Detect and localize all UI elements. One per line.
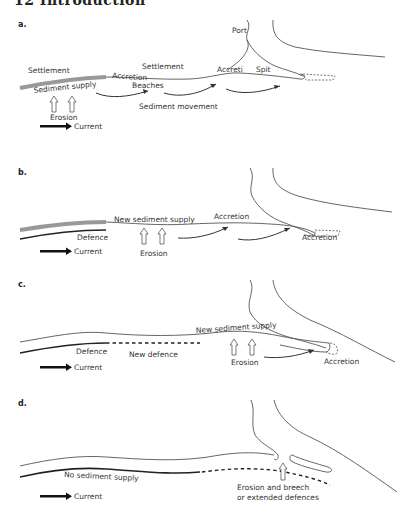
- panel-a: a. Port Settlement Settlement Accretion …: [0, 0, 412, 125]
- panel-d-diagram: No sediment supply Erosion and breech or…: [0, 397, 412, 507]
- label-erosion-breech-1: Erosion and breech: [237, 483, 309, 492]
- label-new-defence: New defence: [129, 350, 178, 359]
- label-sediment-supply: Sediment supply: [33, 79, 97, 95]
- panel-d: d. No sediment supply Erosion and breech…: [0, 397, 412, 507]
- label-current: Current: [74, 363, 102, 372]
- current-arrow-icon: [40, 364, 72, 372]
- current-arrow-icon: [40, 493, 72, 501]
- erosion-arrow-icon: [140, 228, 166, 244]
- panel-a-diagram: Port Settlement Settlement Accretion Acc…: [0, 0, 412, 125]
- label-accretion-top: Accretion: [214, 212, 249, 221]
- label-settlement-mid: Settlement: [142, 62, 184, 71]
- panel-b-diagram: New sediment supply Accretion Defence Er…: [0, 168, 412, 258]
- label-accretion-right: Accretion: [302, 233, 337, 242]
- label-beaches: Beaches: [132, 81, 164, 90]
- label-accretion-right: Accreti: [217, 65, 243, 74]
- panel-c: c. New sediment supply Defence New defen…: [0, 280, 412, 380]
- label-spit: Spit: [256, 65, 271, 74]
- panel-b: b. New sediment supply Accretion Defence…: [0, 168, 412, 258]
- label-no-sediment-supply: No sediment supply: [64, 470, 140, 483]
- erosion-arrow-icon: [50, 96, 76, 112]
- label-new-sediment-supply: New sediment supply: [196, 320, 278, 335]
- label-current: Current: [74, 122, 102, 131]
- label-defence: Defence: [76, 347, 108, 356]
- label-erosion: Erosion: [50, 113, 78, 122]
- label-port: Port: [232, 26, 247, 35]
- label-erosion: Erosion: [231, 358, 259, 367]
- erosion-arrow-icon: [230, 339, 256, 355]
- label-new-sediment-supply: New sediment supply: [114, 215, 195, 224]
- label-sediment-movement: Sediment movement: [139, 102, 218, 111]
- label-defence: Defence: [77, 233, 109, 242]
- panel-c-diagram: New sediment supply Defence New defence …: [0, 280, 412, 380]
- label-erosion: Erosion: [140, 249, 168, 258]
- label-erosion-breech-2: or extended defences: [237, 493, 319, 502]
- label-current: Current: [74, 492, 102, 501]
- current-arrow-icon: [40, 248, 72, 256]
- label-settlement-left: Settlement: [28, 66, 70, 75]
- current-arrow-icon: [40, 123, 72, 131]
- label-accretion: Accretion: [324, 357, 359, 366]
- label-current: Current: [74, 247, 102, 256]
